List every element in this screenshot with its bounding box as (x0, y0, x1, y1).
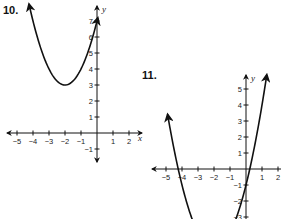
graph-10-parabola (29, 4, 98, 85)
y-tick-label: 4 (89, 65, 93, 74)
y-tick-label: 7 (89, 17, 93, 26)
y-tick-label: −1 (233, 181, 242, 190)
graph-10: 10. x y −5−4−3−2−112 −11234567 (3, 4, 142, 162)
y-tick-label: 4 (238, 101, 242, 110)
graph-11-number: 11. (142, 69, 157, 81)
x-tick-label: 2 (276, 173, 280, 182)
graph-11: 11. y −5−4−3−2−112 −3−2−112345 (142, 69, 281, 219)
x-tick-label: −4 (29, 137, 38, 146)
x-tick-label: −3 (45, 137, 54, 146)
y-tick-label: 2 (89, 97, 93, 106)
y-tick-label: 1 (238, 149, 242, 158)
graphs-canvas: 10. x y −5−4−3−2−112 −11234567 11. y −5−… (0, 0, 281, 219)
graph-10-number: 10. (3, 4, 18, 16)
y-tick-label: −1 (84, 145, 93, 154)
x-tick-label: −5 (162, 173, 171, 182)
y-tick-label: 3 (89, 81, 93, 90)
graph-10-x-label: x (137, 133, 142, 143)
graph-10-y-label: y (101, 4, 106, 14)
x-tick-label: −5 (13, 137, 22, 146)
graph-11-y-label: y (250, 73, 255, 83)
y-tick-label: 2 (238, 133, 242, 142)
x-tick-label: 1 (111, 137, 115, 146)
y-tick-label: 1 (89, 113, 93, 122)
x-tick-label: −3 (194, 173, 203, 182)
graph-11-parabola-left-branch (168, 114, 200, 219)
y-tick-label: 5 (238, 85, 242, 94)
x-tick-label: 1 (260, 173, 264, 182)
x-tick-label: −2 (210, 173, 219, 182)
x-tick-label: −2 (61, 137, 70, 146)
x-tick-label: 2 (127, 137, 131, 146)
y-tick-label: 3 (238, 117, 242, 126)
